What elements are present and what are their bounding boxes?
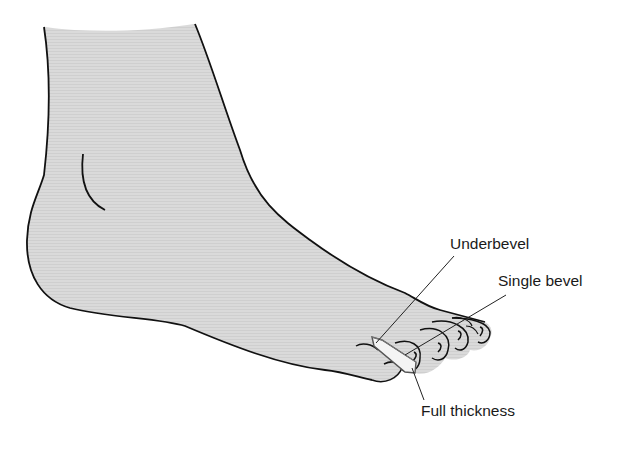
label-single-bevel: Single bevel (498, 273, 582, 289)
foot-outline (27, 24, 492, 382)
label-underbevel: Underbevel (450, 236, 529, 252)
label-full-thickness: Full thickness (421, 403, 515, 419)
foot-diagram (0, 0, 628, 451)
